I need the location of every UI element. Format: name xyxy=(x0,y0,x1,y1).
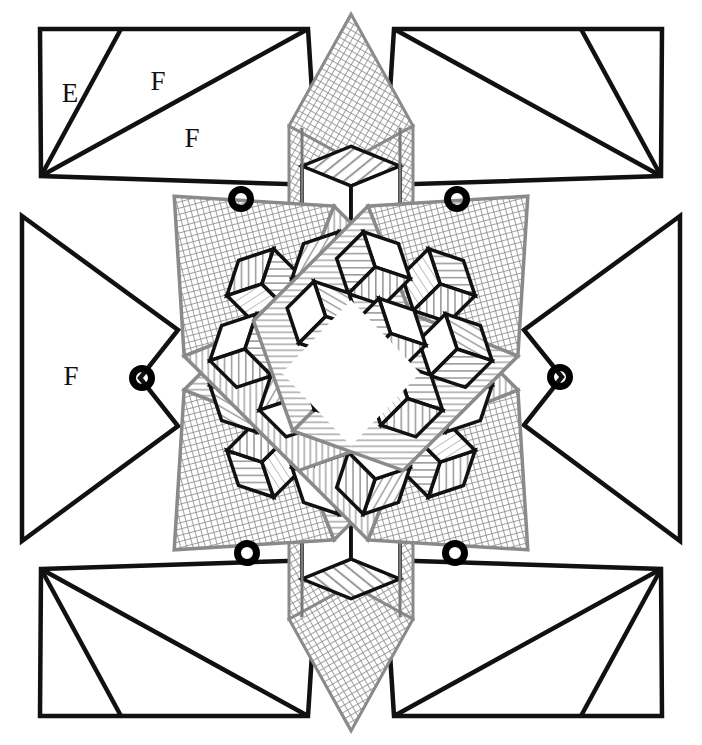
label-f-top-left-upper: F xyxy=(150,66,165,96)
corner-block-bottom-left xyxy=(40,560,318,716)
label-f-left-middle: F xyxy=(63,361,78,391)
corner-block-top-left xyxy=(40,29,318,185)
corner-block-top-right xyxy=(384,29,662,185)
quilt-block-diagram: EFFF xyxy=(0,0,702,745)
label-e-top-left: E xyxy=(62,78,79,108)
figure-canvas: EFFF xyxy=(0,0,702,745)
label-f-top-left-lower: F xyxy=(184,123,199,153)
corner-block-bottom-right xyxy=(384,560,662,716)
